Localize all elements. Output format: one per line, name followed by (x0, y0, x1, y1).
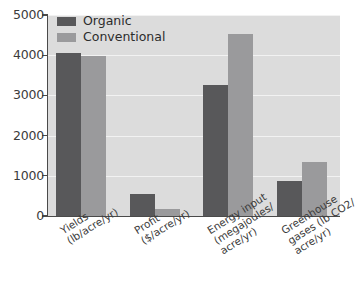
legend-label-conventional: Conventional (83, 31, 165, 44)
legend-item-conventional: Conventional (57, 30, 165, 44)
y-axis-tick-label: 5000 (0, 9, 44, 22)
bar-organic-yields (56, 53, 81, 216)
y-axis-tick-label: 3000 (0, 89, 44, 102)
bar-conventional-yields (81, 56, 106, 216)
legend-swatch-organic (57, 17, 76, 26)
y-axis-line (47, 14, 48, 217)
legend: Organic Conventional (57, 14, 165, 46)
bar-organic-greenhouse-gases (277, 181, 302, 216)
y-axis-tick-label: 2000 (0, 130, 44, 143)
bar-conventional-energy-input (228, 34, 253, 216)
y-axis-tick-label: 0 (0, 210, 44, 223)
legend-swatch-conventional (57, 33, 76, 42)
y-axis-tick-label: 4000 (0, 49, 44, 62)
bar-organic-energy-input (203, 85, 228, 216)
legend-item-organic: Organic (57, 14, 165, 28)
y-axis-tick-label: 1000 (0, 170, 44, 183)
legend-label-organic: Organic (83, 15, 132, 28)
